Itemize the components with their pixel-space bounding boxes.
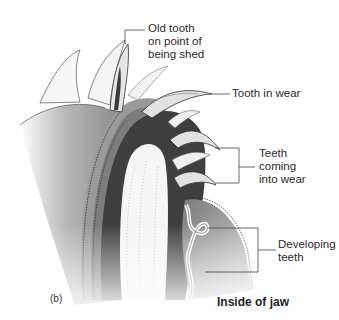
caption-inside-of-jaw: Inside of jaw xyxy=(217,295,289,309)
label-tooth-in-wear: Tooth in wear xyxy=(232,87,300,100)
label-developing-teeth: Developing teeth xyxy=(278,238,336,264)
label-old-tooth: Old tooth on point of being shed xyxy=(148,22,204,61)
label-teeth-coming-into-wear: Teeth coming into wear xyxy=(259,147,306,186)
panel-label: (b) xyxy=(50,293,62,304)
